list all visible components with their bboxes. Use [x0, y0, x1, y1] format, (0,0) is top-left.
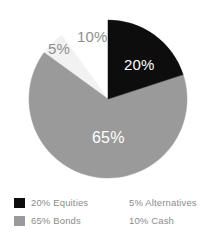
legend-column-left: 20% Equities 65% Bonds — [14, 196, 110, 232]
legend-label-alternatives: 5% Alternatives — [129, 198, 197, 208]
legend-column-right: 5% Alternatives 10% Cash — [112, 196, 208, 232]
pie-chart-plot-area: 20% 65% 5% 10% — [0, 0, 210, 190]
legend-swatch-bonds — [14, 216, 25, 226]
legend-item-bonds[interactable]: 65% Bonds — [14, 214, 110, 228]
slice-label-bonds: 65% — [92, 130, 125, 146]
legend-item-alternatives[interactable]: 5% Alternatives — [112, 196, 208, 210]
legend-swatch-cash — [112, 216, 123, 226]
legend-label-cash: 10% Cash — [129, 216, 174, 226]
legend-swatch-equities — [14, 198, 25, 208]
pie-chart-figure: 20% 65% 5% 10% 20% Equities 65% Bonds 5%… — [0, 0, 210, 239]
slice-label-alternatives: 5% — [48, 41, 70, 56]
slice-label-cash: 10% — [77, 29, 108, 44]
legend-swatch-alternatives — [112, 198, 123, 208]
chart-legend: 20% Equities 65% Bonds 5% Alternatives 1… — [0, 196, 210, 239]
legend-label-bonds: 65% Bonds — [31, 216, 81, 226]
legend-item-equities[interactable]: 20% Equities — [14, 196, 110, 210]
legend-item-cash[interactable]: 10% Cash — [112, 214, 208, 228]
legend-label-equities: 20% Equities — [31, 198, 88, 208]
slice-label-equities: 20% — [124, 57, 155, 72]
